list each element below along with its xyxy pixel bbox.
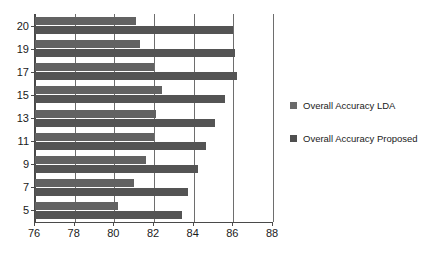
bar-7-proposed — [35, 188, 188, 196]
y-tick-label-5: 5 — [23, 205, 29, 216]
legend-entry-lda[interactable]: Overall Accuracy LDA — [290, 100, 418, 111]
bar-17-proposed — [35, 72, 237, 80]
x-tick-label-80: 80 — [107, 228, 119, 239]
x-tick-84 — [193, 222, 194, 226]
bar-19-proposed — [35, 49, 235, 57]
bar-20-proposed — [35, 26, 233, 34]
bar-5-lda — [35, 202, 118, 210]
x-tick-label-76: 76 — [28, 228, 40, 239]
bar-17-lda — [35, 63, 154, 71]
x-tick-label-84: 84 — [187, 228, 199, 239]
legend-entry-proposed[interactable]: Overall Accuracy Proposed — [290, 133, 418, 144]
x-tick-label-82: 82 — [147, 228, 159, 239]
plot-area: 201917151311975 — [34, 14, 273, 222]
chart-screenshot: 201917151311975 76788082848688 Overall A… — [0, 0, 423, 255]
legend-swatch-proposed — [290, 135, 297, 142]
y-tick-label-17: 17 — [17, 66, 29, 77]
x-tick-76 — [34, 222, 35, 226]
y-tick-label-13: 13 — [17, 113, 29, 124]
bar-13-proposed — [35, 119, 215, 127]
legend-label-proposed: Overall Accuracy Proposed — [303, 133, 418, 144]
bar-9-lda — [35, 156, 146, 164]
y-tick-label-15: 15 — [17, 89, 29, 100]
bar-19-lda — [35, 40, 140, 48]
x-tick-88 — [272, 222, 273, 226]
bar-15-lda — [35, 86, 162, 94]
x-tick-label-78: 78 — [68, 228, 80, 239]
legend-label-lda: Overall Accuracy LDA — [303, 100, 395, 111]
gridline-86 — [233, 14, 234, 222]
x-tick-80 — [113, 222, 114, 226]
gridline-88 — [273, 14, 274, 222]
y-tick-label-19: 19 — [17, 43, 29, 54]
legend-swatch-lda — [290, 102, 297, 109]
bar-11-lda — [35, 133, 154, 141]
y-tick-label-7: 7 — [23, 182, 29, 193]
bar-15-proposed — [35, 95, 225, 103]
x-tick-label-88: 88 — [266, 228, 278, 239]
bar-11-proposed — [35, 142, 206, 150]
y-tick-label-11: 11 — [18, 136, 29, 147]
bar-13-lda — [35, 110, 156, 118]
bar-5-proposed — [35, 211, 182, 219]
x-tick-78 — [74, 222, 75, 226]
bar-7-lda — [35, 179, 134, 187]
x-tick-86 — [232, 222, 233, 226]
x-tick-82 — [153, 222, 154, 226]
y-tick-label-9: 9 — [23, 159, 29, 170]
bar-9-proposed — [35, 165, 198, 173]
y-tick-label-20: 20 — [17, 20, 29, 31]
bar-20-lda — [35, 17, 136, 25]
x-tick-label-86: 86 — [226, 228, 238, 239]
chart-legend: Overall Accuracy LDA Overall Accuracy Pr… — [290, 100, 418, 166]
